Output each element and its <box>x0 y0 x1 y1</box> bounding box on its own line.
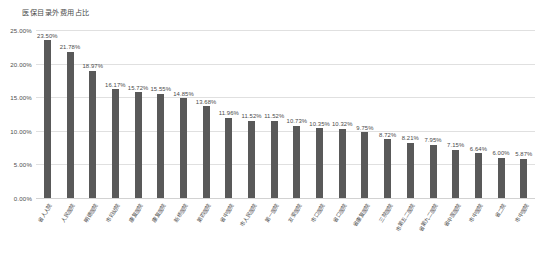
bar-slot: 7.15% <box>444 30 467 198</box>
bar-slot: 14.85% <box>172 30 195 198</box>
bar-value-label: 5.87% <box>515 151 532 157</box>
x-axis-tick-label: 明德医院 <box>82 202 100 224</box>
bar-value-label: 11.52% <box>241 113 261 119</box>
x-axis-tick-label: 市妇幼院 <box>104 202 122 224</box>
bar[interactable] <box>316 128 323 198</box>
bar[interactable] <box>430 145 437 198</box>
x-axis-tick-label: 省人人院 <box>36 202 54 224</box>
x-label-slot: 省中医医院 <box>444 199 467 255</box>
x-axis-tick-label: 三院医院 <box>377 202 395 224</box>
bar[interactable] <box>248 121 255 198</box>
bar[interactable] <box>89 71 96 198</box>
x-axis-tick-label: 市口医院 <box>309 202 327 224</box>
bar-slot: 15.72% <box>127 30 150 198</box>
bar[interactable] <box>225 118 232 198</box>
bar-slot: 8.21% <box>399 30 422 198</box>
bar[interactable] <box>384 139 391 198</box>
x-axis-tick-label: 省中医院 <box>218 202 236 224</box>
x-label-slot: 人民医院 <box>59 199 82 255</box>
x-label-slot: 省人人院 <box>36 199 59 255</box>
bar[interactable] <box>361 132 368 198</box>
x-axis-tick-label: 第四医院 <box>195 202 213 224</box>
chart-container: 医保目录外费用占比 25.00%20.00%15.00%10.00%5.00%0… <box>0 0 549 258</box>
x-label-slot: 省中医院 <box>218 199 241 255</box>
bar[interactable] <box>475 153 482 198</box>
bar-slot: 21.78% <box>59 30 82 198</box>
bar-slot: 8.72% <box>376 30 399 198</box>
bar-slot: 6.64% <box>467 30 490 198</box>
x-label-slot: 市口医院 <box>308 199 331 255</box>
bar[interactable] <box>67 52 74 198</box>
bar[interactable] <box>293 126 300 198</box>
bar-value-label: 14.85% <box>173 91 194 97</box>
bar-value-label: 9.75% <box>356 125 373 131</box>
bar-value-label: 6.64% <box>470 146 487 152</box>
x-axis-tick-label: 省二院 <box>493 202 508 219</box>
bar-value-label: 10.73% <box>287 118 308 124</box>
y-axis-tick-label: 10.00% <box>10 127 32 134</box>
bar[interactable] <box>520 159 527 198</box>
bar-value-label: 16.17% <box>105 82 126 88</box>
bar[interactable] <box>339 129 346 198</box>
bar-value-label: 11.96% <box>219 110 239 116</box>
x-axis-tick-label: 市中医院 <box>513 202 531 224</box>
bar-slot: 18.97% <box>81 30 104 198</box>
bar-value-label: 10.35% <box>309 121 330 127</box>
bar[interactable] <box>452 150 459 198</box>
bar-slot: 5.87% <box>512 30 535 198</box>
x-label-slot: 新桥医院 <box>172 199 195 255</box>
bar-value-label: 11.52% <box>264 113 284 119</box>
x-label-slot: 省口医院 <box>331 199 354 255</box>
bar-value-label: 10.32% <box>332 121 353 127</box>
bar[interactable] <box>112 89 119 198</box>
x-label-slot: 第四医院 <box>195 199 218 255</box>
bar-slot: 9.75% <box>354 30 377 198</box>
bar-value-label: 18.97% <box>82 63 103 69</box>
bar-slot: 23.50% <box>36 30 59 198</box>
x-axis-tick-label: 省中医医院 <box>442 202 463 228</box>
x-label-slot: 友爱医院 <box>286 199 309 255</box>
bar-slot: 11.52% <box>263 30 286 198</box>
x-label-slot: 市人民医院 <box>240 199 263 255</box>
bar-value-label: 21.78% <box>60 44 81 50</box>
x-axis-tick-label: 省口医院 <box>331 202 349 224</box>
bar-value-label: 8.72% <box>379 132 396 138</box>
x-axis-labels: 省人人院人民医院明德医院市妇幼院康复医院康复医院新桥医院第四医院省中医院市人民医… <box>36 199 535 255</box>
plot-area: 25.00%20.00%15.00%10.00%5.00%0.00% 23.50… <box>36 30 535 198</box>
bar-slot: 13.68% <box>195 30 218 198</box>
bar-slot: 15.55% <box>149 30 172 198</box>
y-axis-tick-label: 0.00% <box>14 195 32 202</box>
bar[interactable] <box>135 92 142 198</box>
x-axis-tick-label: 第一医院 <box>263 202 281 224</box>
y-axis-tick-label: 5.00% <box>14 161 32 168</box>
x-label-slot: 康复医院 <box>149 199 172 255</box>
bar[interactable] <box>203 106 210 198</box>
x-axis-tick-label: 康复医院 <box>127 202 145 224</box>
bar-slot: 10.73% <box>286 30 309 198</box>
bar[interactable] <box>271 121 278 198</box>
bar[interactable] <box>157 94 164 198</box>
x-axis-tick-label: 人民医院 <box>59 202 77 224</box>
x-label-slot: 省二院 <box>490 199 513 255</box>
x-label-slot: 明德医院 <box>81 199 104 255</box>
bar[interactable] <box>180 98 187 198</box>
x-axis-tick-label: 省康复医院 <box>351 202 372 228</box>
bar[interactable] <box>407 143 414 198</box>
chart-title: 医保目录外费用占比 <box>22 7 90 17</box>
x-axis-tick-label: 市中医院 <box>467 202 485 224</box>
bar-value-label: 23.50% <box>37 33 58 39</box>
bar-value-label: 13.68% <box>196 99 217 105</box>
x-label-slot: 省第九二医院 <box>422 199 445 255</box>
bar-slot: 11.96% <box>218 30 241 198</box>
x-label-slot: 省康复医院 <box>354 199 377 255</box>
x-axis-tick-label: 新桥医院 <box>172 202 190 224</box>
bar-series: 23.50%21.78%18.97%16.17%15.72%15.55%14.8… <box>36 30 535 198</box>
bar[interactable] <box>44 40 51 198</box>
bar-slot: 10.32% <box>331 30 354 198</box>
bar-slot: 7.95% <box>422 30 445 198</box>
x-label-slot: 市中医院 <box>512 199 535 255</box>
x-label-slot: 市妇幼院 <box>104 199 127 255</box>
x-label-slot: 市中医院 <box>467 199 490 255</box>
bar[interactable] <box>498 158 505 198</box>
bar-value-label: 15.72% <box>128 85 149 91</box>
